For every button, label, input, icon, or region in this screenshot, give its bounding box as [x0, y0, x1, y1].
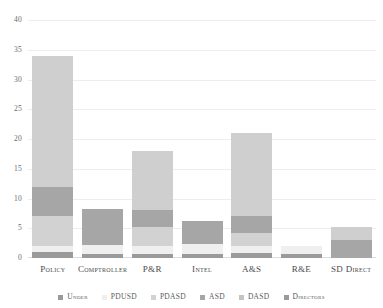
bar-group[interactable]	[281, 246, 322, 258]
x-axis-category-label: R&E	[277, 262, 327, 276]
legend-label: ASD	[209, 293, 225, 301]
x-axis-category-label: Intel	[177, 262, 227, 276]
bar-segment[interactable]	[132, 246, 173, 254]
bar-segment[interactable]	[82, 209, 123, 245]
bar-segment[interactable]	[281, 254, 322, 258]
x-axis-category-label: Policy	[28, 262, 78, 276]
x-axis-category-label: A&S	[227, 262, 277, 276]
y-axis-tick-label: 40	[0, 16, 22, 24]
y-axis-tick-label: 25	[0, 105, 22, 113]
y-axis-tick-label: 15	[0, 165, 22, 173]
legend-item[interactable]: PDASD	[151, 293, 186, 301]
legend-swatch-icon	[284, 295, 289, 300]
bar-segment[interactable]	[331, 240, 372, 258]
legend-swatch-icon	[102, 295, 107, 300]
legend-label: PDUSD	[111, 293, 137, 301]
bar-segment[interactable]	[231, 246, 272, 253]
bar-segment[interactable]	[32, 187, 73, 217]
legend-label: DASD	[248, 293, 270, 301]
x-axis-category-label: Comptroller	[78, 262, 128, 276]
bar-group[interactable]	[231, 133, 272, 258]
legend-item[interactable]: Directors	[284, 293, 325, 301]
bar-group[interactable]	[331, 227, 372, 258]
bar-segment[interactable]	[231, 253, 272, 258]
bar-segment[interactable]	[132, 254, 173, 258]
y-axis-tick-label: 0	[0, 254, 22, 262]
bar-group[interactable]	[32, 56, 73, 258]
bar-group[interactable]	[132, 151, 173, 258]
stacked-bar-chart: 0510152025303540 PolicyComptrollerP&RInt…	[0, 0, 383, 308]
bar-segment[interactable]	[132, 151, 173, 211]
legend-swatch-icon	[58, 295, 63, 300]
y-axis-tick-label: 35	[0, 46, 22, 54]
bar-segment[interactable]	[32, 56, 73, 187]
legend-label: Under	[67, 293, 88, 301]
bars-layer	[28, 20, 376, 258]
legend-item[interactable]: Under	[58, 293, 88, 301]
bar-segment[interactable]	[182, 254, 223, 258]
legend-item[interactable]: DASD	[239, 293, 270, 301]
bar-segment[interactable]	[82, 254, 123, 258]
chart-legend: UnderPDUSDPDASDASDDASDDirectors	[0, 289, 383, 305]
legend-item[interactable]: ASD	[200, 293, 225, 301]
y-axis-tick-label: 10	[0, 195, 22, 203]
bar-segment[interactable]	[82, 245, 123, 254]
bar-segment[interactable]	[132, 210, 173, 227]
legend-item[interactable]: PDUSD	[102, 293, 137, 301]
legend-swatch-icon	[239, 295, 244, 300]
x-axis-category-label: SD Direct	[326, 262, 376, 276]
bar-segment[interactable]	[32, 216, 73, 246]
legend-label: Directors	[293, 293, 325, 301]
y-axis-tick-label: 30	[0, 76, 22, 84]
bar-segment[interactable]	[331, 227, 372, 240]
legend-label: PDASD	[160, 293, 186, 301]
bar-segment[interactable]	[32, 252, 73, 258]
bar-group[interactable]	[182, 221, 223, 258]
bar-segment[interactable]	[182, 221, 223, 245]
bar-segment[interactable]	[231, 216, 272, 233]
y-axis-tick-label: 20	[0, 135, 22, 143]
legend-swatch-icon	[151, 295, 156, 300]
bar-group[interactable]	[82, 209, 123, 258]
x-axis-labels: PolicyComptrollerP&RIntelA&SR&ESD Direct	[28, 262, 376, 278]
bar-segment[interactable]	[281, 246, 322, 254]
legend-swatch-icon	[200, 295, 205, 300]
x-axis-category-label: P&R	[127, 262, 177, 276]
bar-segment[interactable]	[231, 133, 272, 216]
bar-segment[interactable]	[132, 227, 173, 246]
bar-segment[interactable]	[182, 244, 223, 254]
bar-segment[interactable]	[231, 233, 272, 246]
y-axis-tick-label: 5	[0, 224, 22, 232]
